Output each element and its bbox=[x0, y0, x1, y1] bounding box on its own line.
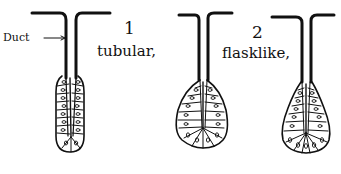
figure2-number: 2 bbox=[252, 24, 263, 41]
flasklike-gland-triangular bbox=[272, 15, 334, 153]
figure1-number: 1 bbox=[124, 20, 135, 37]
figure2-name: flasklike, bbox=[222, 46, 290, 61]
figure1-name: tubular, bbox=[97, 44, 156, 59]
duct-label: Duct bbox=[3, 32, 30, 43]
gland-illustration bbox=[0, 0, 341, 174]
gland-diagram: Duct 1 tubular, 2 flasklike, bbox=[0, 0, 341, 174]
flasklike-gland-rounded bbox=[176, 13, 232, 148]
tubular-gland bbox=[32, 13, 110, 152]
